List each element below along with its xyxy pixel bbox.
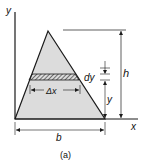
- x-axis-label: x: [130, 121, 137, 132]
- y-axis-label: y: [5, 5, 12, 16]
- strip-position-label: y: [106, 94, 113, 105]
- height-label: h: [123, 67, 129, 79]
- triangle-area-diagram: y x h dy y Δx b (a): [0, 0, 148, 164]
- arrow-down-icon: [103, 70, 107, 74]
- dy-label: dy: [84, 72, 96, 83]
- arrow-right-icon: [100, 128, 104, 132]
- arrow-down-icon: [119, 114, 123, 118]
- hatched-strip: [29, 74, 79, 80]
- arrow-up-icon: [103, 81, 107, 85]
- figure-caption: (a): [60, 150, 71, 160]
- delta-x-label: Δx: [45, 86, 57, 96]
- arrow-left-icon: [16, 128, 20, 132]
- base-label: b: [56, 132, 62, 143]
- arrow-up-icon: [119, 31, 123, 35]
